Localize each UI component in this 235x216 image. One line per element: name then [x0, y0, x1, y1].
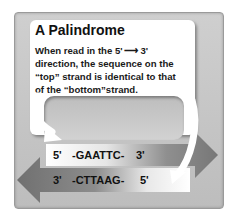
bottom-strand-sequence: -CTTAAG-	[72, 174, 124, 186]
top-strand-3prime: 3'	[136, 149, 145, 161]
curved-arrow-left-icon	[34, 96, 62, 142]
top-strand-sequence: -GAATTC-	[72, 149, 124, 161]
top-strand-5prime: 5'	[53, 149, 62, 161]
curved-arrow-right-icon	[170, 100, 195, 184]
bottom-strand-5prime: 5'	[140, 174, 149, 186]
bottom-strand-3prime: 3'	[53, 174, 62, 186]
